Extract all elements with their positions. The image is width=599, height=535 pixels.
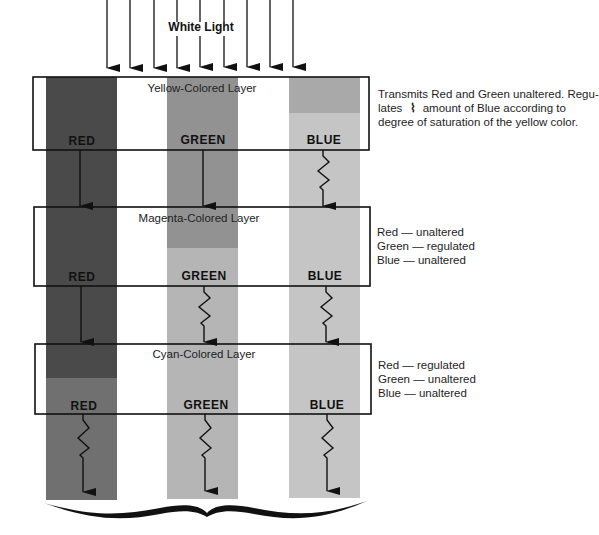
yellow-note-line-2: amount of Blue according to [423,102,566,114]
cyan-green-label: GREEN [183,398,228,412]
yellow-blue-label: BLUE [307,133,342,147]
yellow-green-label: GREEN [180,133,225,147]
magenta-red-label: RED [69,270,96,284]
yellow-note-line-1: Transmits Red and Green unaltered. Regu- [378,87,599,101]
cyan-layer-note: Red — regulated Green — unaltered Blue —… [378,358,476,400]
white-light-arrows [107,0,293,68]
regulated-zigzag-icon: ⌇ [406,101,420,115]
cyan-layer-title: Cyan-Colored Layer [153,348,256,360]
magenta-blue-label: BLUE [308,269,343,283]
yellow-layer-note: Transmits Red and Green unaltered. Regu-… [378,87,599,129]
cyan-blue-label: BLUE [310,398,345,412]
cyan-note-blue: Blue — unaltered [378,386,476,400]
cyan-note-red: Red — regulated [378,358,476,372]
magenta-note-green: Green — regulated [377,239,475,253]
yellow-layer-title: Yellow-Colored Layer [148,82,257,94]
yellow-red-label: RED [69,134,96,148]
magenta-green-label: GREEN [181,269,226,283]
yellow-note-line-3: degree of saturation of the yellow color… [378,115,599,129]
magenta-note-blue: Blue — unaltered [377,253,475,267]
cyan-note-green: Green — unaltered [378,372,476,386]
cyan-red-label: RED [71,399,98,413]
yellow-note-prefix: lates [378,102,402,114]
bottom-brace [44,501,367,518]
white-light-label: White Light [168,20,233,34]
magenta-layer-note: Red — unaltered Green — regulated Blue —… [377,225,475,267]
magenta-layer-title: Magenta-Colored Layer [139,212,260,224]
magenta-note-red: Red — unaltered [377,225,475,239]
